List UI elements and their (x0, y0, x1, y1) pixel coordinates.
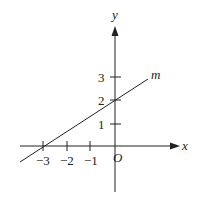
y-tick-label: 3 (98, 70, 105, 85)
x-tick-label: −3 (36, 153, 50, 168)
line-m (20, 79, 148, 162)
y-tick-label: 1 (98, 117, 105, 132)
y-axis-arrow-icon (112, 26, 119, 36)
x-axis-arrow-icon (170, 143, 180, 150)
line-m-label: m (151, 67, 160, 82)
y-axis-label: y (110, 7, 118, 22)
diagram-svg: y x O m −3 −2 −1 1 2 3 (0, 0, 199, 198)
origin-label: O (113, 150, 123, 165)
x-tick-label: −1 (84, 153, 98, 168)
y-tick-label: 2 (98, 93, 105, 108)
x-tick-label: −2 (60, 153, 74, 168)
coordinate-diagram: y x O m −3 −2 −1 1 2 3 (0, 0, 199, 198)
x-axis-label: x (181, 138, 188, 153)
